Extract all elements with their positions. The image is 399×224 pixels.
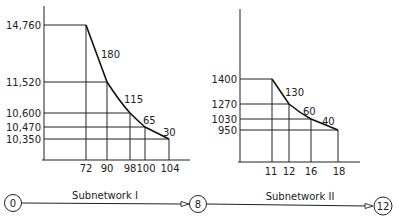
slope-label: 30 (163, 127, 176, 138)
y-tick-label: 1030 (212, 114, 237, 125)
chart-subnetwork-1: 14,760 11,520 10,600 10,470 10,350 72 90… (6, 6, 190, 174)
y-tick-label: 10,470 (6, 122, 41, 133)
slope-label: 180 (101, 49, 120, 60)
edge-label: Subnetwork I (72, 190, 138, 201)
x-tick-label: 12 (283, 166, 296, 177)
y-tick-label: 1270 (212, 99, 237, 110)
edge-subnetwork-1 (22, 203, 183, 204)
x-tick-label: 18 (333, 166, 346, 177)
arrow-head-icon (365, 204, 373, 209)
x-tick-label: 104 (160, 163, 179, 174)
time-cost-diagram: 14,760 11,520 10,600 10,470 10,350 72 90… (0, 0, 399, 224)
network-diagram: Subnetwork I Subnetwork II 0 8 12 (5, 190, 393, 215)
y-tick-label: 1400 (212, 74, 237, 85)
arrow-head-icon (181, 202, 189, 207)
slope-label: 60 (303, 106, 316, 117)
slope-label: 130 (285, 87, 304, 98)
edge-subnetwork-2 (207, 204, 367, 206)
slope-label: 40 (322, 116, 335, 127)
y-tick-label: 11,520 (6, 77, 41, 88)
slope-label: 115 (124, 94, 143, 105)
node-label: 12 (377, 201, 390, 212)
y-tick-label: 14,760 (6, 20, 41, 31)
y-tick-label: 10,600 (6, 108, 41, 119)
x-tick-label: 98 (124, 163, 137, 174)
edge-label: Subnetwork II (266, 191, 335, 202)
y-tick-label: 10,350 (6, 134, 41, 145)
x-tick-label: 90 (101, 163, 114, 174)
node-label: 0 (10, 198, 16, 209)
y-tick-label: 950 (218, 125, 237, 136)
x-tick-label: 11 (265, 166, 278, 177)
slope-label: 65 (143, 115, 156, 126)
x-tick-label: 16 (305, 166, 318, 177)
x-tick-label: 100 (136, 163, 155, 174)
x-tick-label: 72 (80, 163, 93, 174)
node-label: 8 (195, 199, 201, 210)
chart-subnetwork-2: 1400 1270 1030 950 11 12 16 18 130 60 40 (212, 9, 360, 177)
